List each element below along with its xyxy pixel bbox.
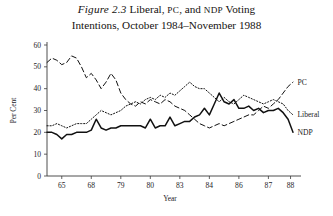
x-tick-label: 88 (287, 181, 295, 190)
figure-caption: Figure 2.3 Liberal, PC, and NDP Voting I… (0, 2, 333, 33)
figure-number: Figure 2.3 (78, 3, 127, 15)
series-label-pc: PC (297, 78, 306, 87)
figure-title-part-b: , and (179, 3, 204, 15)
y-tick-label: 10 (33, 150, 41, 159)
x-tick-label: 79 (117, 181, 125, 190)
x-tick-label: 83 (176, 181, 184, 190)
y-axis-title: Per Cent (9, 97, 18, 124)
series-label-ndp: NDP (297, 128, 312, 137)
figure-caption-line1: Figure 2.3 Liberal, PC, and NDP Voting (0, 2, 333, 18)
y-tick-label: 0 (37, 172, 41, 181)
series-line-ndp (47, 93, 293, 139)
y-tick-label: 50 (33, 62, 41, 71)
figure-caption-line2: Intentions, October 1984–November 1988 (0, 18, 333, 33)
data-series-group (47, 56, 293, 139)
x-tick-label: 84 (206, 181, 214, 190)
y-tick-label: 60 (33, 41, 41, 50)
series-label-group: PCLiberalNDP (297, 78, 319, 137)
voting-intentions-line-chart: 0102030405060 656879808384868788 PCLiber… (0, 34, 333, 216)
y-axis-ticks: 0102030405060 (33, 41, 47, 181)
x-axis-ticks: 656879808384868788 (58, 176, 295, 190)
y-tick-label: 40 (33, 84, 41, 93)
figure-title-pc: PC (167, 5, 179, 15)
x-tick-label: 65 (58, 181, 66, 190)
x-tick-label: 86 (235, 181, 243, 190)
x-tick-label: 68 (87, 181, 95, 190)
figure-title-part-a: Liberal, (129, 3, 167, 15)
chart-canvas: 0102030405060 656879808384868788 PCLiber… (0, 34, 333, 216)
series-line-liberal (47, 82, 293, 128)
figure-title-part-c: Voting (223, 3, 255, 15)
series-label-liberal: Liberal (297, 110, 319, 119)
figure-title-ndp: NDP (204, 5, 223, 15)
figure-page: Figure 2.3 Liberal, PC, and NDP Voting I… (0, 0, 333, 216)
x-tick-label: 80 (147, 181, 155, 190)
y-tick-label: 20 (33, 128, 41, 137)
x-tick-label: 87 (265, 181, 273, 190)
y-tick-label: 30 (33, 106, 41, 115)
x-axis-title: Year (163, 194, 177, 203)
